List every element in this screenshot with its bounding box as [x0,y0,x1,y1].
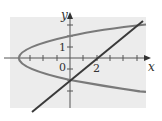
y-axis-arrow-icon [67,12,73,19]
y-axis-label: y [60,8,68,22]
y-tick-label-1: 1 [59,41,66,54]
origin-label: 0 [59,61,66,74]
graph: y x 0 2 1 [0,0,162,121]
x-axis-label: x [148,60,155,74]
x-tick-label-2: 2 [93,62,100,75]
plot-background [10,17,146,108]
